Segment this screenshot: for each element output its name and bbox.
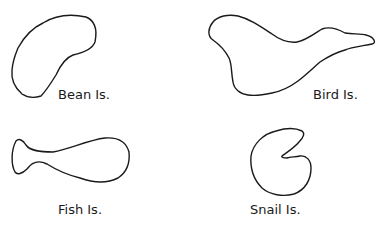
bean-island-outline: [12, 15, 96, 97]
snail-island-outline: [251, 129, 311, 196]
fish-island-outline: [12, 138, 129, 182]
bird-island-outline: [209, 15, 375, 95]
snail-island-label: Snail Is.: [250, 203, 301, 216]
fish-island-label: Fish Is.: [58, 203, 102, 216]
bean-island-label: Bean Is.: [58, 88, 110, 101]
island-shapes-figure: Bean Is. Bird Is. Fish Is. Snail Is.: [0, 0, 387, 226]
island-outlines: [0, 0, 387, 226]
bird-island-label: Bird Is.: [313, 88, 358, 101]
